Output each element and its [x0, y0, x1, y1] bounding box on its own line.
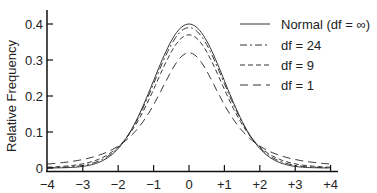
- legend-label: df = 24: [281, 38, 321, 53]
- x-tick-label: +4: [323, 177, 338, 192]
- y-axis-ticks: 00.10.20.30.4: [25, 17, 53, 176]
- x-tick-label: +1: [217, 177, 232, 192]
- legend-item-df1: df = 1: [240, 78, 314, 93]
- legend-item-normal: Normal (df = ∞): [240, 17, 370, 32]
- x-tick-label: 0: [185, 177, 192, 192]
- x-tick-label: −4: [40, 177, 55, 192]
- x-tick-label: −2: [111, 177, 126, 192]
- legend-label: df = 9: [281, 58, 314, 73]
- x-axis-ticks: −4−3−2−10+1+2+3+4: [40, 165, 338, 192]
- y-tick-label: 0.2: [25, 89, 43, 104]
- y-axis-title: Relative Frequency: [4, 40, 19, 152]
- x-tick-label: −1: [146, 177, 161, 192]
- legend-label: df = 1: [281, 78, 314, 93]
- x-tick-label: +3: [288, 177, 303, 192]
- curve-df9: [47, 35, 330, 167]
- legend-item-df24: df = 24: [240, 38, 321, 53]
- t-distribution-chart: 00.10.20.30.4 −4−3−2−10+1+2+3+4 Relative…: [0, 0, 377, 193]
- y-tick-label: 0: [36, 161, 43, 176]
- y-tick-label: 0.3: [25, 53, 43, 68]
- legend-label: Normal (df = ∞): [281, 17, 370, 32]
- y-tick-label: 0.1: [25, 125, 43, 140]
- y-tick-label: 0.4: [25, 17, 43, 32]
- x-tick-label: +2: [252, 177, 267, 192]
- legend: Normal (df = ∞) df = 24 df = 9 df = 1: [240, 17, 370, 93]
- legend-item-df9: df = 9: [240, 58, 314, 73]
- x-tick-label: −3: [75, 177, 90, 192]
